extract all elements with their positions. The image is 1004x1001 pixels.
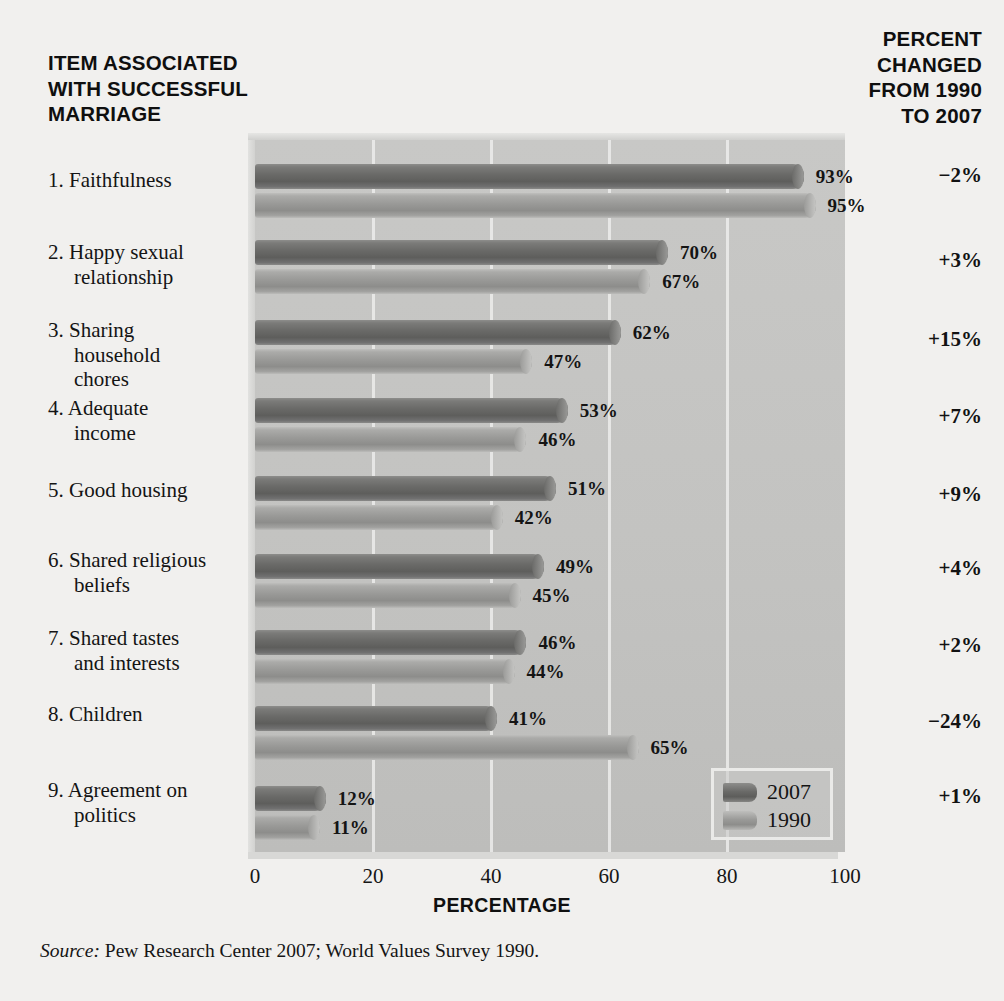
bar-group-7-1990: 44% <box>255 659 585 684</box>
bar-1990-3 <box>255 349 532 374</box>
bar-value-label-1990-9: 11% <box>332 817 369 839</box>
category-label-line: 7. Shared tastes <box>48 626 253 651</box>
source-value: Pew Research Center 2007; World Values S… <box>100 940 539 961</box>
bar-group-2-2007: 70% <box>255 240 738 265</box>
category-label-line: 1. Faithfulness <box>48 168 253 193</box>
bar-group-3-2007: 62% <box>255 320 691 345</box>
x-tick-20: 20 <box>343 864 403 889</box>
bar-1990-7 <box>255 659 515 684</box>
bar-group-1-2007: 93% <box>255 164 874 189</box>
bar-group-1-1990: 95% <box>255 193 886 218</box>
category-label-1: 1. Faithfulness <box>48 168 253 193</box>
bar-value-label-1990-8: 65% <box>651 737 689 759</box>
bar-cap-icon <box>485 706 497 731</box>
bar-cap-icon <box>308 815 320 840</box>
x-tick-80: 80 <box>697 864 757 889</box>
bar-cap-icon <box>491 505 503 530</box>
percent-change-value-2: +3% <box>832 248 982 273</box>
category-label-9: 9. Agreement onpolitics <box>48 778 253 827</box>
source-note: Source: Pew Research Center 2007; World … <box>40 940 539 962</box>
legend-label-2007: 2007 <box>767 779 811 805</box>
bar-value-label-1990-1: 95% <box>828 195 866 217</box>
category-label-line: household <box>48 343 253 368</box>
bar-2007-4 <box>255 398 568 423</box>
bar-2007-5 <box>255 476 556 501</box>
bar-cap-icon <box>520 349 532 374</box>
bar-cap-icon <box>503 659 515 684</box>
item-column-header: ITEM ASSOCIATEDWITH SUCCESSFULMARRIAGE <box>48 50 348 127</box>
bar-cap-icon <box>792 164 804 189</box>
x-tick-60: 60 <box>579 864 639 889</box>
x-tick-0: 0 <box>225 864 285 889</box>
item-header-line-1: ITEM ASSOCIATED <box>48 50 348 76</box>
bar-value-label-1990-2: 67% <box>662 271 700 293</box>
bar-value-label-1990-6: 45% <box>533 585 571 607</box>
percent-change-value-4: +7% <box>832 404 982 429</box>
bar-cap-icon <box>514 630 526 655</box>
x-tick-40: 40 <box>461 864 521 889</box>
chart-legend: 20071990 <box>711 768 833 840</box>
x-tick-100: 100 <box>815 864 875 889</box>
bar-2007-7 <box>255 630 526 655</box>
bar-group-6-2007: 49% <box>255 554 614 579</box>
legend-swatch-icon-2007 <box>723 783 757 802</box>
percent-change-value-6: +4% <box>832 556 982 581</box>
category-label-line: politics <box>48 803 253 828</box>
bar-cap-icon <box>544 476 556 501</box>
percent-change-value-3: +15% <box>832 327 982 352</box>
bar-group-3-1990: 47% <box>255 349 602 374</box>
bar-1990-4 <box>255 427 526 452</box>
legend-label-1990: 1990 <box>767 807 811 833</box>
bar-cap-icon <box>314 786 326 811</box>
percent-changed-column-header: PERCENTCHANGEDFROM 1990TO 2007 <box>762 26 982 128</box>
change-header-line-3: FROM 1990 <box>762 77 982 103</box>
item-header-line-2: WITH SUCCESSFUL <box>48 76 348 102</box>
bar-group-8-2007: 41% <box>255 706 567 731</box>
category-label-line: 2. Happy sexual <box>48 240 253 265</box>
category-label-8: 8. Children <box>48 702 253 727</box>
category-label-3: 3. Sharinghouseholdchores <box>48 318 253 392</box>
category-label-7: 7. Shared tastesand interests <box>48 626 253 675</box>
bar-cap-icon <box>656 240 668 265</box>
change-header-line-2: CHANGED <box>762 52 982 78</box>
bar-value-label-1990-4: 46% <box>538 429 576 451</box>
bar-1990-1 <box>255 193 816 218</box>
category-label-line: relationship <box>48 265 253 290</box>
bar-value-label-1990-5: 42% <box>515 507 553 529</box>
bar-cap-icon <box>556 398 568 423</box>
bar-group-5-2007: 51% <box>255 476 626 501</box>
bar-2007-8 <box>255 706 497 731</box>
category-label-2: 2. Happy sexualrelationship <box>48 240 253 289</box>
bar-group-8-1990: 65% <box>255 735 709 760</box>
percent-change-value-5: +9% <box>832 482 982 507</box>
bar-1990-8 <box>255 735 639 760</box>
category-label-4: 4. Adequateincome <box>48 396 253 445</box>
bar-cap-icon <box>532 554 544 579</box>
bar-cap-icon <box>627 735 639 760</box>
bar-group-5-1990: 42% <box>255 505 573 530</box>
chart-plot-area: 93%95%70%67%62%47%53%46%51%42%49%45%46%4… <box>255 140 845 852</box>
bar-1990-6 <box>255 583 521 608</box>
bar-value-label-1990-7: 44% <box>527 661 565 683</box>
bar-1990-5 <box>255 505 503 530</box>
category-label-line: and interests <box>48 651 253 676</box>
bar-group-6-1990: 45% <box>255 583 591 608</box>
bar-value-label-2007-3: 62% <box>633 322 671 344</box>
x-axis-title: PERCENTAGE <box>0 894 1004 917</box>
bar-value-label-2007-4: 53% <box>580 400 618 422</box>
bar-value-label-1990-3: 47% <box>544 351 582 373</box>
bar-value-label-2007-5: 51% <box>568 478 606 500</box>
bar-value-label-2007-6: 49% <box>556 556 594 578</box>
bar-2007-6 <box>255 554 544 579</box>
bar-value-label-2007-8: 41% <box>509 708 547 730</box>
bar-value-label-2007-2: 70% <box>680 242 718 264</box>
change-header-line-4: TO 2007 <box>762 103 982 129</box>
bar-1990-2 <box>255 269 650 294</box>
category-label-line: chores <box>48 367 253 392</box>
percent-change-value-1: −2% <box>832 163 982 188</box>
bar-1990-9 <box>255 815 320 840</box>
category-label-line: 5. Good housing <box>48 478 253 503</box>
legend-swatch-icon-1990 <box>723 811 757 830</box>
category-label-line: 9. Agreement on <box>48 778 253 803</box>
bar-cap-icon <box>609 320 621 345</box>
